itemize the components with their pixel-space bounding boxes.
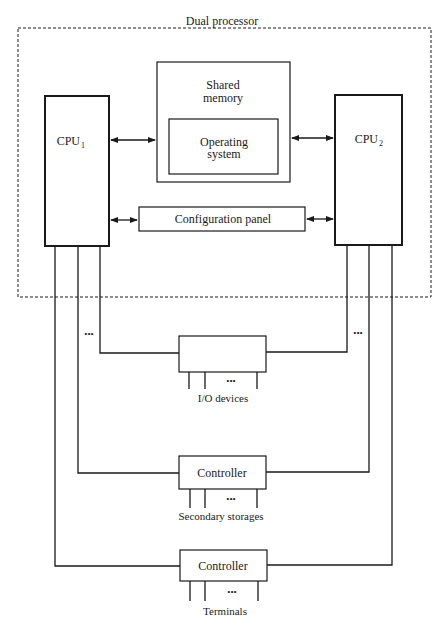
terminal-controller-node: Controller ••• Terminals xyxy=(180,550,267,617)
cpu2-bus-ellipsis: ••• xyxy=(353,328,362,338)
shared-memory-label-1: Shared xyxy=(206,78,239,92)
storage-ellipsis: ••• xyxy=(226,494,235,504)
dual-processor-title: Dual processor xyxy=(186,14,258,28)
shared-memory-label-2: memory xyxy=(203,91,243,105)
io-ellipsis: ••• xyxy=(226,376,235,386)
line-cpu1-storage xyxy=(78,246,179,473)
operating-system-label-2: system xyxy=(207,147,241,161)
storage-controller-node: Controller ••• Secondary storages xyxy=(178,456,266,522)
line-cpu1-terminal xyxy=(55,246,180,566)
cpu2-label: CPU xyxy=(355,132,379,146)
cpu1-label: CPU xyxy=(57,134,81,148)
cpu1-subscript: 1 xyxy=(81,141,85,150)
line-cpu2-io xyxy=(266,245,347,352)
storage-controller-label: Controller xyxy=(197,466,246,480)
io-devices-caption: I/O devices xyxy=(198,392,248,404)
cpu2-subscript: 2 xyxy=(379,139,383,148)
cpu1-node: CPU 1 xyxy=(45,96,109,246)
cpu1-bus-ellipsis: ••• xyxy=(84,329,93,339)
operating-system-node: Operating system xyxy=(169,119,278,174)
io-devices-node: ••• I/O devices xyxy=(179,336,266,404)
secondary-storages-caption: Secondary storages xyxy=(178,510,263,522)
terminals-caption: Terminals xyxy=(203,605,247,617)
terminal-controller-label: Controller xyxy=(198,559,247,573)
terminal-ellipsis: ••• xyxy=(227,587,236,597)
line-cpu1-io xyxy=(100,246,179,353)
line-cpu2-terminal xyxy=(267,245,392,565)
line-cpu2-storage xyxy=(266,245,369,472)
configuration-panel-label: Configuration panel xyxy=(175,212,272,226)
dual-processor-diagram: Dual processor CPU 1 CPU 2 Shared memory… xyxy=(0,0,448,628)
configuration-panel-node: Configuration panel xyxy=(139,207,305,231)
cpu2-node: CPU 2 xyxy=(335,95,402,245)
